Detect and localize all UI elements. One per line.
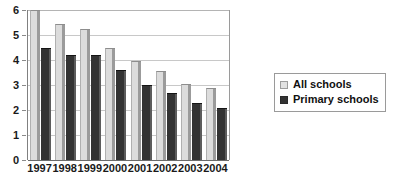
bar: [192, 103, 202, 161]
x-tick-label: 1998: [52, 162, 76, 174]
legend-item[interactable]: All schools: [280, 77, 379, 92]
bar: [217, 108, 227, 161]
y-tick-label: 6: [13, 5, 19, 16]
bar: [55, 24, 65, 160]
y-tick-mark: [22, 110, 26, 111]
plot-area: [27, 10, 230, 160]
y-tick-mark: [22, 135, 26, 136]
x-tick-label: 1997: [27, 162, 51, 174]
x-tick-label: 1999: [78, 162, 102, 174]
bar: [167, 93, 177, 161]
bar: [181, 84, 191, 160]
bar: [66, 55, 76, 160]
y-tick-mark: [22, 35, 26, 36]
y-tick-label: 2: [13, 105, 19, 116]
y-tick-label: 1: [13, 130, 19, 141]
y-tick-mark: [22, 160, 26, 161]
legend-item-label: All schools: [293, 79, 352, 90]
bar: [80, 29, 90, 160]
y-tick-label: 0: [13, 155, 19, 166]
y-tick-label: 5: [13, 30, 19, 41]
legend-item-label: Primary schools: [293, 94, 379, 105]
bar: [41, 48, 51, 161]
x-tick-label: 2001: [128, 162, 152, 174]
y-tick-label: 3: [13, 80, 19, 91]
dark-gray-square-icon: [280, 96, 288, 104]
x-tick-label: 2003: [178, 162, 202, 174]
x-tick-label: 2004: [203, 162, 227, 174]
gridline: [28, 10, 229, 11]
bar: [30, 10, 40, 160]
bar: [206, 88, 216, 161]
y-tick-label: 4: [13, 55, 19, 66]
x-tick-label: 2002: [153, 162, 177, 174]
bar: [91, 55, 101, 160]
bar-chart-figure: 0123456 19971998199920002001200220032004…: [0, 0, 393, 192]
y-axis: 0123456: [0, 0, 27, 192]
legend-item[interactable]: Primary schools: [280, 92, 379, 107]
bar: [116, 70, 126, 160]
y-tick-mark: [22, 60, 26, 61]
chart-legend: All schools Primary schools: [274, 73, 386, 112]
y-tick-mark: [22, 10, 26, 11]
bar: [131, 61, 141, 160]
bar: [105, 48, 115, 161]
light-gray-square-icon: [280, 81, 288, 89]
gridline: [28, 160, 229, 161]
bar: [156, 71, 166, 160]
y-tick-mark: [22, 85, 26, 86]
bar: [142, 85, 152, 160]
x-axis: 19971998199920002001200220032004: [27, 162, 228, 176]
x-tick-label: 2000: [103, 162, 127, 174]
